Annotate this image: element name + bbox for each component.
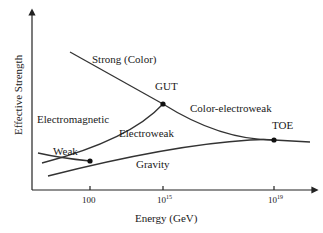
tick-label-100: 100 — [82, 195, 96, 205]
color-electroweak-label: Color-electroweak — [190, 102, 272, 114]
electroweak-point — [87, 158, 92, 163]
x-axis-label: Energy (GeV) — [135, 212, 198, 225]
toe-point — [271, 137, 276, 142]
gravity-label: Gravity — [136, 158, 170, 170]
gut-point — [160, 101, 165, 106]
toe-label: TOE — [272, 119, 293, 131]
strong-label: Strong (Color) — [92, 53, 157, 66]
weak-label: Weak — [53, 145, 78, 157]
force-unification-diagram: Effective Strength Energy (GeV) Strong (… — [0, 0, 323, 233]
y-axis-label: Effective Strength — [12, 54, 24, 135]
tick-label-1e19: 1019 — [268, 194, 283, 205]
electromagnetic-label: Electromagnetic — [37, 113, 109, 125]
electroweak-label: Electroweak — [119, 127, 174, 139]
tick-label-1e15: 1015 — [157, 194, 172, 205]
gut-label: GUT — [155, 80, 178, 92]
